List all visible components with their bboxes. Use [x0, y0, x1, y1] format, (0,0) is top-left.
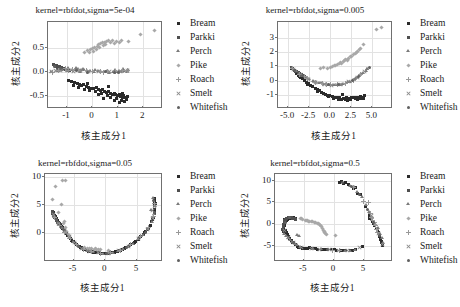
legend-item-pike[interactable]: Pike	[170, 211, 227, 225]
legend-item-bream[interactable]: Bream	[400, 16, 457, 30]
legend-marker-smelt	[400, 239, 416, 253]
y-axis-title-3: 核主成分2	[7, 193, 21, 238]
x-tick-mark	[142, 106, 143, 108]
square-marker-icon	[407, 175, 410, 178]
data-point-roach	[91, 70, 94, 73]
data-point-whitefish	[358, 193, 361, 196]
legend-item-parkki[interactable]: Parkki	[170, 183, 227, 197]
plot-area-3	[44, 173, 162, 261]
plus-marker-icon	[177, 78, 180, 81]
legend-label-roach: Roach	[186, 225, 214, 239]
legend-item-perch[interactable]: Perch	[400, 197, 457, 211]
legend-item-bream[interactable]: Bream	[170, 16, 227, 30]
diamond-marker-icon	[406, 216, 410, 220]
data-point-smelt	[287, 236, 290, 239]
legend-item-roach[interactable]: Roach	[400, 225, 457, 239]
data-point-smelt	[347, 80, 350, 83]
x-tick-mark	[308, 106, 309, 108]
legend-item-roach[interactable]: Roach	[400, 72, 457, 86]
y-tick-mark	[45, 71, 47, 72]
legend-marker-parkki	[400, 30, 416, 44]
legend-label-smelt: Smelt	[186, 239, 212, 253]
y-tick-label: -1	[248, 90, 274, 99]
legend-item-parkki[interactable]: Parkki	[400, 30, 457, 44]
legend-item-smelt[interactable]: Smelt	[170, 239, 227, 253]
gridline-vertical	[334, 174, 335, 260]
data-point-pike	[56, 211, 60, 215]
legend-label-bream: Bream	[416, 169, 445, 183]
y-tick-mark	[272, 223, 274, 224]
data-point-bream	[107, 85, 110, 88]
data-point-whitefish	[75, 69, 78, 72]
legend-item-smelt[interactable]: Smelt	[400, 239, 457, 253]
legend-marker-roach	[400, 225, 416, 239]
data-point-smelt	[97, 70, 100, 73]
y-tick-mark	[42, 204, 44, 205]
data-point-smelt	[370, 214, 373, 217]
legend-label-parkki: Parkki	[186, 30, 215, 44]
gridline-vertical	[105, 174, 106, 260]
legend-marker-bream	[400, 169, 416, 183]
legend-item-perch[interactable]: Perch	[170, 44, 227, 58]
x-tick-mark	[333, 259, 334, 261]
legend-label-bream: Bream	[186, 16, 215, 30]
legend-item-pike[interactable]: Pike	[400, 58, 457, 72]
data-point-bream	[83, 88, 86, 91]
legend-item-parkki[interactable]: Parkki	[400, 183, 457, 197]
data-point-bream	[102, 97, 105, 100]
data-point-smelt	[57, 222, 60, 225]
legend-item-whitefish[interactable]: Whitefish	[400, 253, 457, 267]
data-point-pike	[63, 219, 67, 223]
legend-marker-pike	[400, 58, 416, 72]
legend-marker-whitefish	[170, 253, 186, 267]
x-tick-label: -5	[57, 264, 89, 273]
legend-item-bream[interactable]: Bream	[170, 169, 227, 183]
legend-item-whitefish[interactable]: Whitefish	[170, 253, 227, 267]
legend-item-smelt[interactable]: Smelt	[400, 86, 457, 100]
y-tick-mark	[272, 180, 274, 181]
legend-marker-parkki	[170, 183, 186, 197]
legend-item-perch[interactable]: Perch	[170, 197, 227, 211]
data-point-smelt	[381, 243, 384, 246]
y-axis-title-2: 核主成分2	[238, 41, 252, 86]
diamond-marker-icon	[406, 63, 410, 67]
data-point-bream	[72, 84, 75, 87]
legend-item-bream[interactable]: Bream	[400, 169, 457, 183]
plot-area-1	[47, 21, 162, 108]
legend-item-perch[interactable]: Perch	[400, 44, 457, 58]
data-point-bream	[316, 90, 319, 93]
data-point-bream	[118, 101, 121, 104]
legend-marker-bream	[400, 16, 416, 30]
legend-label-whitefish: Whitefish	[186, 100, 227, 114]
y-tick-mark	[275, 65, 277, 66]
legend-item-smelt[interactable]: Smelt	[170, 86, 227, 100]
legend-item-roach[interactable]: Roach	[170, 72, 227, 86]
data-point-pike	[380, 26, 384, 30]
legend-item-pike[interactable]: Pike	[400, 211, 457, 225]
legend-marker-perch	[400, 197, 416, 211]
legend-item-parkki[interactable]: Parkki	[170, 30, 227, 44]
legend-label-bream: Bream	[186, 169, 215, 183]
y-tick-label: 10	[247, 176, 271, 185]
square-marker-icon	[177, 189, 180, 192]
legend-item-whitefish[interactable]: Whitefish	[400, 100, 457, 114]
gridline-horizontal	[278, 52, 391, 53]
gridline-vertical	[309, 22, 310, 107]
legend-item-whitefish[interactable]: Whitefish	[170, 100, 227, 114]
x-tick-mark	[117, 106, 118, 108]
legend-label-parkki: Parkki	[416, 30, 445, 44]
x-tick-mark	[66, 106, 67, 108]
legend-item-pike[interactable]: Pike	[170, 58, 227, 72]
y-axis-title-4: 核主成分2	[237, 193, 251, 238]
data-point-whitefish	[113, 71, 116, 74]
legend-marker-bream	[170, 16, 186, 30]
x-tick-label: -5	[287, 264, 319, 273]
data-point-whitefish	[292, 241, 295, 244]
plot-title-2: kernel=rbfdot,sigma=0.005	[230, 5, 400, 16]
data-point-smelt	[330, 84, 333, 87]
plot-title-1: kernel=rbfdot,sigma=5e-04	[0, 5, 170, 16]
legend-label-pike: Pike	[186, 211, 207, 225]
y-tick-mark	[275, 51, 277, 52]
y-tick-mark	[275, 80, 277, 81]
legend-item-roach[interactable]: Roach	[170, 225, 227, 239]
